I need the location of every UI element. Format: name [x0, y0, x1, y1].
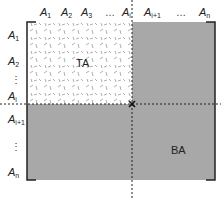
col-label-3: A3 [81, 7, 92, 19]
row-label-i: Ai [8, 91, 17, 103]
matrix-diagram [0, 0, 221, 198]
col-label-1: A1 [40, 7, 51, 19]
col-ellipsis-1: … [105, 7, 115, 18]
region-top-right [132, 22, 215, 104]
row-label-1: A1 [8, 30, 19, 42]
col-label-i-plus-1: Ai+1 [144, 7, 161, 19]
row-label-i-plus-1: Ai+1 [8, 114, 25, 126]
col-label-i: Ai [122, 7, 131, 19]
col-ellipsis-2: … [176, 7, 186, 18]
region-ba [27, 104, 215, 180]
col-label-2: A2 [61, 7, 72, 19]
label-ba: BA [171, 144, 186, 156]
row-label-n: An [8, 167, 19, 179]
row-ellipsis-1: ⋮ [11, 74, 21, 85]
row-ellipsis-2: ⋮ [11, 141, 21, 152]
label-ta: TA [76, 57, 89, 69]
col-label-n: An [199, 7, 210, 19]
row-label-2: A2 [8, 56, 19, 68]
